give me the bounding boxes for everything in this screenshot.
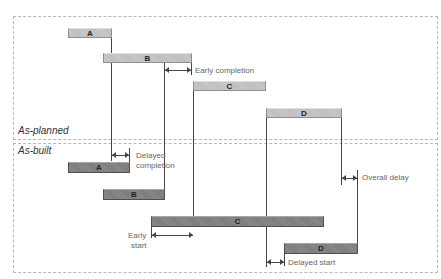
- early-start-label-2: start: [131, 241, 147, 251]
- delayed-completion-label-1: Delayed: [136, 151, 165, 161]
- delayed-start-arrow: [267, 262, 284, 263]
- built-bar-d: D: [284, 243, 358, 254]
- line-planned-b-end: [191, 63, 192, 75]
- delayed-start-label: Delayed start: [288, 258, 335, 268]
- line-built-d-end: [357, 170, 358, 253]
- planned-bar-b: B: [103, 53, 192, 63]
- built-bar-c: C: [151, 216, 324, 227]
- planned-bar-a: A: [68, 28, 112, 38]
- built-bar-a: A: [68, 162, 130, 173]
- delayed-completion-arrow: [112, 155, 129, 156]
- early-completion-arrow: [165, 70, 191, 71]
- early-start-arrow: [152, 235, 193, 236]
- overall-delay-label: Overall delay: [362, 173, 409, 183]
- early-completion-label: Early completion: [195, 66, 254, 76]
- planned-bar-c: C: [193, 81, 266, 91]
- line-planned-b-end-early: [164, 63, 165, 199]
- as-built-label: As-built: [18, 145, 51, 156]
- early-start-label-1: Early: [128, 231, 146, 241]
- as-planned-label: As-planned: [18, 125, 69, 136]
- built-bar-b: B: [103, 189, 165, 200]
- line-built-d-start: [284, 253, 285, 266]
- overall-delay-arrow: [342, 178, 357, 179]
- line-built-a-end: [129, 148, 130, 162]
- line-planned-d-start: [266, 117, 267, 267]
- planned-bar-d: D: [266, 108, 342, 118]
- delayed-completion-label-2: completion: [136, 161, 175, 171]
- line-planned-c-start: [193, 90, 194, 221]
